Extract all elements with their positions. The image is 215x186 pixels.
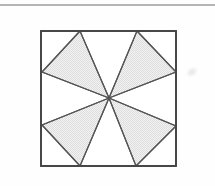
figure-group [41, 31, 176, 166]
geometric-figure [0, 0, 215, 186]
page-canvas [0, 0, 215, 186]
